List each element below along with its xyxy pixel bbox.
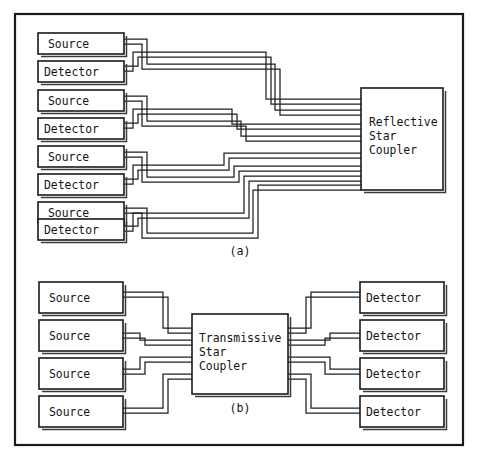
block-diagram-svg: Source Detector Source	[0, 0, 478, 459]
panel-b-source-nodes: Source Source Source Source	[39, 282, 126, 430]
node-source[interactable]: Source	[39, 320, 126, 354]
node-label: Detector	[366, 405, 421, 419]
node-detector[interactable]: Detector	[38, 118, 127, 142]
coupler-label-line2: Star	[369, 129, 397, 143]
caption-panel-b: (b)	[230, 401, 251, 415]
node-source[interactable]: Source	[39, 282, 126, 316]
fiber-bundle-b-left-1	[123, 292, 192, 333]
fiber-bundle-b-right-3	[288, 357, 360, 374]
node-label: Source	[48, 37, 89, 51]
fiber-bundle-a-4	[124, 176, 361, 238]
node-source[interactable]: Source	[38, 146, 127, 170]
panel-a: Source Detector Source	[38, 33, 446, 258]
node-label: Detector	[44, 178, 99, 192]
fiber-bundle-b-right-2	[288, 333, 360, 345]
node-detector[interactable]: Detector	[38, 174, 127, 198]
fiber-bundle-a-2	[124, 96, 361, 141]
figure-root: Source Detector Source	[0, 0, 478, 459]
panel-a-nodes: Source Detector Source	[38, 33, 127, 243]
transmissive-star-coupler[interactable]: Transmissive Star Coupler	[192, 314, 291, 397]
node-label: Source	[49, 367, 90, 381]
node-label: Source	[49, 329, 90, 343]
node-source[interactable]: Source	[38, 33, 127, 57]
node-detector[interactable]: Detector	[360, 358, 447, 392]
coupler-label-line1: Transmissive	[199, 331, 281, 345]
node-label: Source	[49, 291, 90, 305]
node-label: Detector	[44, 223, 99, 237]
fiber-bundle-a-1	[124, 39, 361, 115]
node-detector[interactable]: Detector	[360, 396, 447, 430]
caption-panel-a: (a)	[230, 244, 251, 258]
node-label: Source	[49, 405, 90, 419]
fiber-bundle-b-right-1	[288, 292, 360, 333]
fiber-bundle-b-left-4	[123, 374, 192, 413]
node-source[interactable]: Source	[39, 358, 126, 392]
node-label: Source	[48, 206, 89, 220]
node-label: Detector	[366, 367, 421, 381]
node-label: Detector	[366, 329, 421, 343]
fiber-bundle-a-3	[124, 152, 361, 184]
coupler-label-line3: Coupler	[199, 359, 247, 373]
coupler-label-line1: Reflective	[369, 115, 438, 129]
node-detector[interactable]: Detector	[360, 282, 447, 316]
node-label: Detector	[366, 291, 421, 305]
node-source[interactable]: Source	[38, 90, 127, 114]
panel-b-detector-nodes: Detector Detector Detector Detector	[360, 282, 447, 430]
node-detector[interactable]: Detector	[360, 320, 447, 354]
node-label: Source	[48, 150, 89, 164]
node-source[interactable]: Source	[39, 396, 126, 430]
coupler-label-line2: Star	[199, 345, 227, 359]
reflective-star-coupler[interactable]: Reflective Star Coupler	[361, 88, 446, 193]
fiber-bundle-b-left-2	[123, 333, 192, 345]
coupler-label-line3: Coupler	[369, 143, 417, 157]
fiber-bundle-b-left-3	[123, 357, 192, 374]
node-label: Detector	[44, 65, 99, 79]
node-label: Detector	[44, 122, 99, 136]
node-label: Source	[48, 94, 89, 108]
node-detector[interactable]: Detector	[38, 219, 127, 243]
fiber-bundle-b-right-4	[288, 374, 360, 413]
panel-b: Source Source Source Source	[39, 282, 447, 430]
node-detector[interactable]: Detector	[38, 61, 127, 85]
